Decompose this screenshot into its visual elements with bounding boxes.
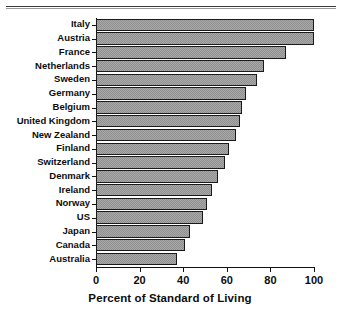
y-axis-label: United Kingdom xyxy=(17,116,90,126)
bar xyxy=(96,115,240,127)
bar-row: Ireland xyxy=(96,183,314,197)
bar-row: Canada xyxy=(96,238,314,252)
y-axis-label: Finland xyxy=(56,143,90,153)
x-axis-tick xyxy=(227,267,228,272)
y-axis-label: Norway xyxy=(56,198,90,208)
bar xyxy=(96,143,229,155)
x-axis-tick-label: 80 xyxy=(250,274,290,286)
bar xyxy=(96,225,190,237)
bar-row: Australia xyxy=(96,252,314,266)
bar xyxy=(96,253,177,265)
bar-row: France xyxy=(96,46,314,60)
bar xyxy=(96,198,207,210)
bar xyxy=(96,170,218,182)
bar-row: Switzerland xyxy=(96,156,314,170)
bar xyxy=(96,87,246,99)
page-rule-top xyxy=(6,6,336,7)
bar-row: New Zealand xyxy=(96,128,314,142)
y-axis-label: Netherlands xyxy=(35,61,90,71)
y-axis-label: Austria xyxy=(57,33,90,43)
bar-row: US xyxy=(96,211,314,225)
x-axis-tick-label: 0 xyxy=(76,274,116,286)
y-axis-label: Canada xyxy=(56,240,90,250)
bar-row: Netherlands xyxy=(96,59,314,73)
x-axis-tick xyxy=(314,267,315,272)
bar-row: Belgium xyxy=(96,101,314,115)
x-axis-tick xyxy=(183,267,184,272)
bar-row: Germany xyxy=(96,87,314,101)
bar xyxy=(96,101,242,113)
bar xyxy=(96,239,185,251)
plot-area: ItalyAustriaFranceNetherlandsSwedenGerma… xyxy=(96,18,314,266)
x-axis-title: Percent of Standard of Living xyxy=(0,292,340,304)
y-axis-label: Denmark xyxy=(49,171,90,181)
y-axis-label: Belgium xyxy=(53,102,90,112)
bar-row: Sweden xyxy=(96,73,314,87)
chart-figure: ItalyAustriaFranceNetherlandsSwedenGerma… xyxy=(0,0,340,332)
bar xyxy=(96,19,314,31)
y-axis-label: US xyxy=(77,212,90,222)
x-axis-line xyxy=(96,267,315,268)
x-axis-tick xyxy=(140,267,141,272)
y-axis-label: France xyxy=(59,47,90,57)
y-axis-label: Sweden xyxy=(54,74,90,84)
y-axis-label: New Zealand xyxy=(32,130,90,140)
x-axis-tick-label: 40 xyxy=(163,274,203,286)
bar xyxy=(96,211,203,223)
y-axis-label: Ireland xyxy=(59,185,90,195)
x-axis-tick xyxy=(96,267,97,272)
bar xyxy=(96,74,257,86)
bar-row: Italy xyxy=(96,18,314,32)
bar xyxy=(96,156,225,168)
page-rule-top-faint xyxy=(6,8,336,9)
bar-row: Austria xyxy=(96,32,314,46)
y-axis-label: Italy xyxy=(71,19,90,29)
y-axis-label: Australia xyxy=(49,254,90,264)
x-axis-tick-label: 60 xyxy=(207,274,247,286)
y-axis-label: Germany xyxy=(49,88,90,98)
bar-row: Denmark xyxy=(96,170,314,184)
bar xyxy=(96,60,264,72)
bar xyxy=(96,46,286,58)
bar-row: Finland xyxy=(96,142,314,156)
bar xyxy=(96,129,236,141)
x-axis-tick-label: 100 xyxy=(294,274,334,286)
bar-row: Japan xyxy=(96,225,314,239)
x-axis-tick-label: 20 xyxy=(120,274,160,286)
bar-row: Norway xyxy=(96,197,314,211)
y-axis-label: Switzerland xyxy=(37,157,90,167)
bar-row: United Kingdom xyxy=(96,114,314,128)
y-axis-label: Japan xyxy=(63,226,90,236)
x-axis-tick xyxy=(270,267,271,272)
bar xyxy=(96,32,314,44)
bar xyxy=(96,184,212,196)
